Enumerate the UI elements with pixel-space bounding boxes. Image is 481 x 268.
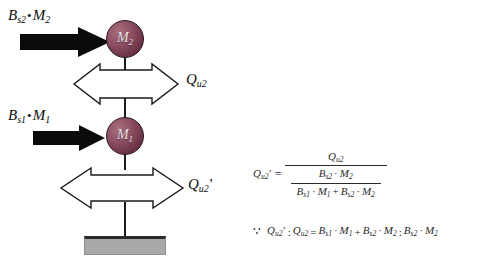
therefore-symbol: ∵ (253, 224, 267, 239)
shear-label-upper: Qu2 (186, 72, 207, 89)
force-label-top: Bs2•M2 (8, 8, 50, 25)
equation-main-equals: = (272, 167, 285, 182)
figure-canvas: Bs2•M2 M2 Qu2 M1 Bs1•M1 Q (0, 0, 481, 268)
conclusion-lhs-a: Qu2’ (267, 224, 286, 238)
shear-label-lower: Qu2’ (188, 177, 214, 194)
equation-main: Qu2’ = Qu2 Bs2·M2 Bs1·M1+Bs2·M2 (253, 150, 387, 199)
conclusion-equals: = (308, 226, 318, 238)
inner-fraction-numerator: Bs2·M2 (313, 167, 359, 182)
column-segment-base (124, 202, 126, 238)
conclusion-colon-2: : (397, 226, 404, 238)
conclusion-rhs-term2: Bs2·M2 (363, 224, 397, 238)
mass-m2: M2 (106, 20, 144, 58)
mass-m1: M1 (106, 117, 144, 155)
conclusion-plus: + (353, 226, 363, 238)
equation-main-fraction: Qu2 Bs2·M2 Bs1·M1+Bs2·M2 (285, 150, 387, 199)
conclusion-rhs-term1: Bs1·M1 (319, 224, 353, 238)
equation-main-denominator: Bs2·M2 Bs1·M1+Bs2·M2 (285, 166, 387, 199)
conclusion-colon-1: : (286, 226, 293, 238)
applied-force-arrow-bottom (33, 124, 107, 152)
mass-m2-label: M2 (117, 31, 133, 47)
shear-arrow-lower (59, 166, 185, 210)
conclusion-lhs-b: Qu2 (293, 224, 308, 238)
inner-fraction-denominator: Bs1·M1+Bs2·M2 (291, 184, 381, 199)
equation-conclusion: ∵ Qu2’ : Qu2 = Bs1·M1 + Bs2·M2 : Bs2·M2 (253, 224, 438, 239)
applied-force-arrow-top (20, 26, 112, 58)
ground-base (84, 236, 166, 255)
equation-main-numerator: Qu2 (322, 150, 349, 165)
column-segment-middle (124, 98, 126, 118)
force-label-bottom: Bs1•M1 (8, 108, 50, 125)
equation-main-lhs: Qu2’ (253, 167, 272, 181)
shear-arrow-upper (72, 62, 180, 106)
mass-m1-label: M1 (117, 128, 133, 144)
conclusion-rhs-term3: Bs2·M2 (404, 224, 438, 238)
